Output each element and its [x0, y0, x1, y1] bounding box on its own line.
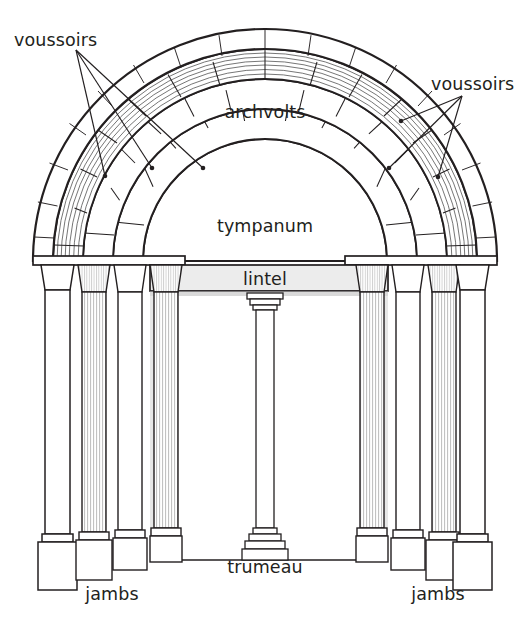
jamb-columns-left: [38, 265, 182, 590]
jamb-column-left-3: [113, 265, 147, 570]
label-tympanum: tympanum: [217, 216, 313, 236]
label-jambs-right: jambs: [410, 584, 464, 604]
jamb-column-left-1: [38, 265, 77, 590]
label-voussoirs-left: voussoirs: [14, 30, 97, 50]
label-voussoirs-right: voussoirs: [431, 74, 514, 94]
jamb-columns-right: [356, 265, 492, 590]
label-trumeau: trumeau: [227, 557, 302, 577]
jamb-column-right-3: [391, 265, 425, 570]
portal-diagram: voussoirs voussoirs archvolts tympanum l…: [0, 0, 530, 621]
label-archvolts: archvolts: [224, 102, 305, 122]
label-jambs-left: jambs: [84, 584, 138, 604]
jamb-column-left-4: [150, 265, 182, 562]
jamb-column-right-1: [453, 265, 492, 590]
jamb-column-right-4: [356, 265, 388, 562]
trumeau-column: [242, 293, 288, 560]
label-lintel: lintel: [243, 269, 287, 289]
portal-diagram-svg: voussoirs voussoirs archvolts tympanum l…: [0, 0, 530, 621]
jamb-column-left-2: [76, 265, 112, 580]
jamb-column-right-2: [426, 265, 462, 580]
